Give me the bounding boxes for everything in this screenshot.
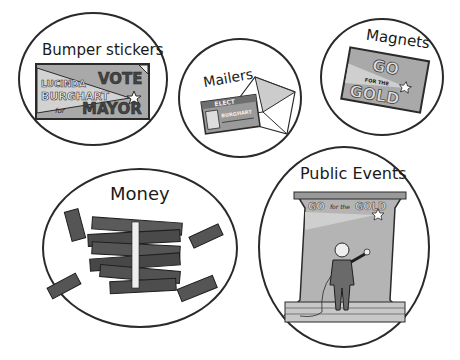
banner-go: GO — [308, 201, 325, 212]
bumper-stickers-title: Bumper stickers — [42, 41, 164, 59]
banner-gold: GOLD — [355, 201, 386, 212]
money-stack-image — [40, 200, 240, 310]
magnet-image: GO FOR THE GOLD — [340, 48, 430, 114]
sticker-for: for — [55, 107, 66, 115]
sticker-lucinda: LUCINDA — [41, 79, 86, 89]
bumper-sticker-image: VOTE LUCINDA BURGHART for MAYOR — [35, 63, 150, 120]
sticker-mayor: MAYOR — [82, 100, 142, 118]
banner-for-the: for the — [330, 203, 350, 210]
mailer-envelope-image: ELECT BURGHART — [195, 72, 305, 142]
public-events-title: Public Events — [300, 164, 407, 183]
public-event-stage-image: GO for the GOLD — [270, 190, 420, 330]
sticker-vote: VOTE — [98, 70, 143, 88]
